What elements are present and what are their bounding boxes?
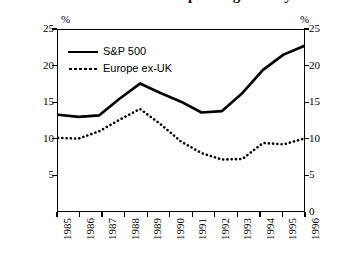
x-tick-mark [169,212,170,217]
y-axis-label: 20 [30,60,54,71]
legend-label-europe-ex-uk: Europe ex-UK [103,63,172,74]
x-axis-label: 1992 [220,218,231,240]
chart-container: Tax rates for US companies generally % %… [0,0,345,272]
y-axis-unit-right: % [300,14,309,25]
x-axis-label: 1991 [197,218,208,240]
x-tick-mark [237,212,238,217]
x-tick-mark [282,212,283,217]
y-axis-unit-left: % [61,14,70,25]
x-axis-label: 1988 [130,218,141,240]
x-axis-label: 1987 [107,218,118,240]
y-axis-label: 10 [30,133,54,144]
x-axis-label: 1996 [310,218,321,240]
x-tick-mark [259,212,260,217]
legend-swatch-dotted-icon [68,63,98,75]
x-tick-mark [79,212,80,217]
x-tick-mark [147,212,148,217]
x-axis-label: 1990 [175,218,186,240]
y-axis-label: 15 [309,96,335,107]
y-axis-zero-label: 0 [309,206,315,217]
y-axis-label: 25 [30,23,54,34]
legend-label-sp500: S&P 500 [103,46,146,57]
x-axis-label: 1994 [265,218,276,240]
page-title: Tax rates for US companies generally [0,0,345,4]
legend-item-europe-ex-uk: Europe ex-UK [68,61,172,76]
legend-swatch-solid-icon [68,46,98,58]
chart-legend: S&P 500 Europe ex-UK [68,44,172,78]
y-axis-label: 25 [309,23,335,34]
x-tick-mark [214,212,215,217]
y-axis-label: 15 [30,96,54,107]
y-axis-label: 10 [309,133,335,144]
x-axis-label: 1985 [62,218,73,240]
x-tick-mark [192,212,193,217]
x-axis-label: 1989 [152,218,163,240]
y-axis-label: 5 [30,169,54,180]
x-axis-label: 1986 [85,218,96,240]
x-tick-mark [304,212,305,217]
x-tick-mark [56,212,57,217]
x-tick-mark [124,212,125,217]
y-axis-label: 5 [309,169,335,180]
x-axis-label: 1995 [287,218,298,240]
chart-title-clipped: Tax rates for US companies generally [0,0,345,9]
x-tick-mark [101,212,102,217]
y-axis-label: 20 [309,60,335,71]
legend-item-sp500: S&P 500 [68,44,172,59]
x-axis-label: 1993 [242,218,253,240]
